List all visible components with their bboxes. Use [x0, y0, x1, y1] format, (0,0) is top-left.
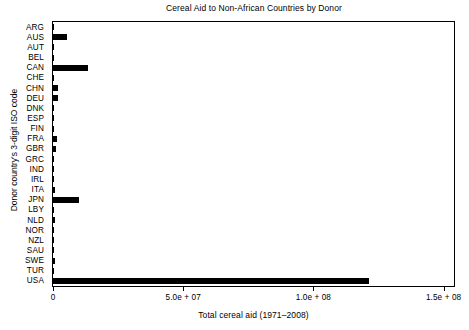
bar-fill: [53, 146, 56, 152]
y-tick-label-nor: NOR: [26, 226, 45, 235]
y-tick-label-chn: CHN: [26, 84, 44, 93]
bar-fill: [53, 187, 55, 193]
bar-che: [53, 75, 454, 81]
bar-fill: [53, 176, 54, 182]
bar-chn: [53, 85, 454, 91]
y-tick-label-jpn: JPN: [28, 195, 44, 204]
bar-fill: [53, 197, 79, 203]
y-tick-label-tur: TUR: [27, 266, 44, 275]
bar-swe: [53, 258, 454, 264]
bar-fill: [53, 75, 54, 81]
bar-fill: [53, 207, 54, 213]
bar-fill: [53, 227, 54, 233]
y-tick-label-bel: BEL: [28, 53, 44, 62]
bar-tur: [53, 268, 454, 274]
bar-deu: [53, 95, 454, 101]
x-axis-title: Total cereal aid (1971–2008): [52, 310, 455, 321]
x-tick-label-0: 0: [51, 293, 56, 303]
bar-arg: [53, 24, 454, 30]
bar-fill: [53, 95, 58, 101]
bar-fill: [53, 278, 369, 284]
bar-fill: [53, 268, 54, 274]
bar-dnk: [53, 105, 454, 111]
bar-ita: [53, 187, 454, 193]
bar-fill: [53, 55, 54, 61]
bar-fill: [53, 136, 57, 142]
bar-fill: [53, 24, 54, 30]
bar-fill: [53, 247, 54, 253]
x-tick-mark-3: [444, 287, 445, 291]
y-tick-label-irl: IRL: [31, 175, 44, 184]
x-tick-mark-1: [183, 287, 184, 291]
bar-lby: [53, 207, 454, 213]
y-tick-label-esp: ESP: [27, 114, 44, 123]
bar-nld: [53, 217, 454, 223]
y-tick-label-dnk: DNK: [26, 104, 44, 113]
bar-fra: [53, 136, 454, 142]
x-tick-label-2: 1.0e + 08: [296, 293, 331, 303]
bar-bel: [53, 55, 454, 61]
bar-ind: [53, 166, 454, 172]
y-tick-label-ind: IND: [30, 165, 44, 174]
y-tick-label-sau: SAU: [27, 246, 44, 255]
plot-frame: [52, 21, 455, 287]
bar-fill: [53, 65, 88, 71]
bar-fill: [53, 105, 54, 111]
bar-irl: [53, 176, 454, 182]
bar-fill: [53, 156, 54, 162]
bar-fill: [53, 126, 54, 132]
bar-fin: [53, 126, 454, 132]
y-tick-label-nzl: NZL: [28, 236, 44, 245]
bar-esp: [53, 115, 454, 121]
chart-title: Cereal Aid to Non-African Countries by D…: [53, 3, 455, 14]
bar-fill: [53, 44, 54, 50]
y-tick-label-swe: SWE: [25, 256, 44, 265]
y-tick-label-aut: AUT: [27, 43, 44, 52]
y-tick-label-ita: ITA: [32, 185, 44, 194]
bar-fill: [53, 85, 58, 91]
bar-grc: [53, 156, 454, 162]
y-tick-label-usa: USA: [27, 276, 44, 285]
y-tick-label-gbr: GBR: [26, 144, 44, 153]
bar-fill: [53, 237, 54, 243]
y-axis-tick-labels: ARGAUSAUTBELCANCHECHNDEUDNKESPFINFRAGBRG…: [0, 21, 48, 287]
bar-nor: [53, 227, 454, 233]
bar-fill: [53, 258, 55, 264]
bar-can: [53, 65, 454, 71]
bar-fill: [53, 166, 54, 172]
x-tick-label-1: 5.0e + 07: [166, 293, 201, 303]
bar-usa: [53, 278, 454, 284]
x-tick-mark-0: [53, 287, 54, 291]
plot-area: [53, 22, 454, 286]
bar-fill: [53, 217, 55, 223]
y-tick-label-arg: ARG: [26, 23, 44, 32]
bar-nzl: [53, 237, 454, 243]
chart-figure: Cereal Aid to Non-African Countries by D…: [0, 0, 469, 330]
bar-sau: [53, 247, 454, 253]
y-tick-label-aus: AUS: [27, 33, 44, 42]
y-tick-label-deu: DEU: [26, 94, 44, 103]
x-tick-label-3: 1.5e + 08: [426, 293, 461, 303]
y-tick-label-fin: FIN: [31, 124, 45, 133]
bar-gbr: [53, 146, 454, 152]
y-tick-label-fra: FRA: [27, 134, 44, 143]
bar-fill: [53, 115, 54, 121]
y-tick-label-lby: LBY: [28, 205, 44, 214]
x-tick-mark-2: [313, 287, 314, 291]
y-tick-label-che: CHE: [26, 73, 44, 82]
bar-aus: [53, 34, 454, 40]
bar-jpn: [53, 197, 454, 203]
y-tick-label-can: CAN: [26, 63, 44, 72]
y-tick-label-grc: GRC: [26, 155, 45, 164]
y-tick-label-nld: NLD: [27, 216, 44, 225]
bar-fill: [53, 34, 67, 40]
bar-aut: [53, 44, 454, 50]
